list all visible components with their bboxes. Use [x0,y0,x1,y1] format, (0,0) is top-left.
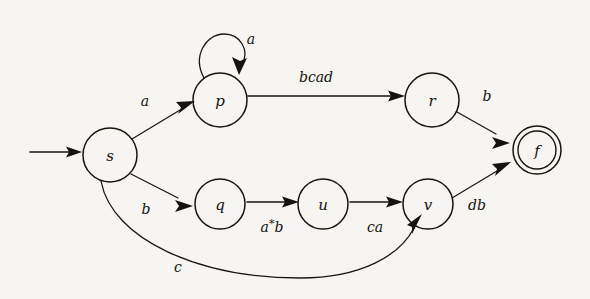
state-node-q[interactable]: q [195,179,245,229]
edge-r-to-f: b [457,88,510,149]
state-label-p: p [215,92,225,110]
edge-label-r-to-f: b [483,88,492,104]
edge-p-to-r: bcad [248,69,405,102]
edge-label-q-to-u-base: a [261,219,269,235]
edge-u-to-v: ca [350,197,403,236]
edge-s-to-p: a [132,93,195,139]
edge-label-s-to-v: c [174,259,182,275]
edge-v-to-f-arrow-head [492,162,511,176]
state-node-s[interactable]: s [83,128,137,182]
edge-s-to-p-arrow-head [176,101,195,114]
edge-label-s-to-p: a [141,93,149,109]
edge-p-self-loop-arrow-head [232,57,247,75]
start-arrow [30,147,82,158]
edge-label-s-to-q: b [142,201,151,217]
state-label-f: f [533,142,542,160]
edge-label-v-to-f: db [468,197,486,213]
state-node-r[interactable]: r [405,73,459,127]
edge-label-p-self-loop: a [247,31,255,47]
state-label-r: r [428,92,436,110]
edge-q-to-u: a*b [247,197,299,236]
edge-v-to-f: db [452,162,511,213]
state-label-v: v [424,196,433,214]
state-node-v[interactable]: v [403,179,453,229]
edge-label-u-to-v: ca [367,219,383,235]
state-node-p[interactable]: p [193,73,247,127]
edge-r-to-f-arrow-head [492,137,510,149]
edge-label-q-to-u: a*b [261,217,284,236]
edge-s-to-v-arrow-head [407,214,422,234]
automaton-canvas: a a bcad b b a*b [0,0,590,299]
state-label-s: s [106,147,114,165]
edge-s-to-q: b [131,174,193,217]
state-node-f[interactable]: f [513,126,561,174]
automaton-diagram: a a bcad b b a*b [0,0,590,299]
state-label-u: u [318,196,328,214]
edge-p-self-loop: a [200,31,256,78]
edge-s-to-q-arrow-head [175,200,193,212]
edge-label-q-to-u-tail: b [274,219,283,235]
state-label-q: q [215,196,225,214]
edge-label-p-to-r: bcad [299,69,333,85]
state-node-u[interactable]: u [298,179,348,229]
